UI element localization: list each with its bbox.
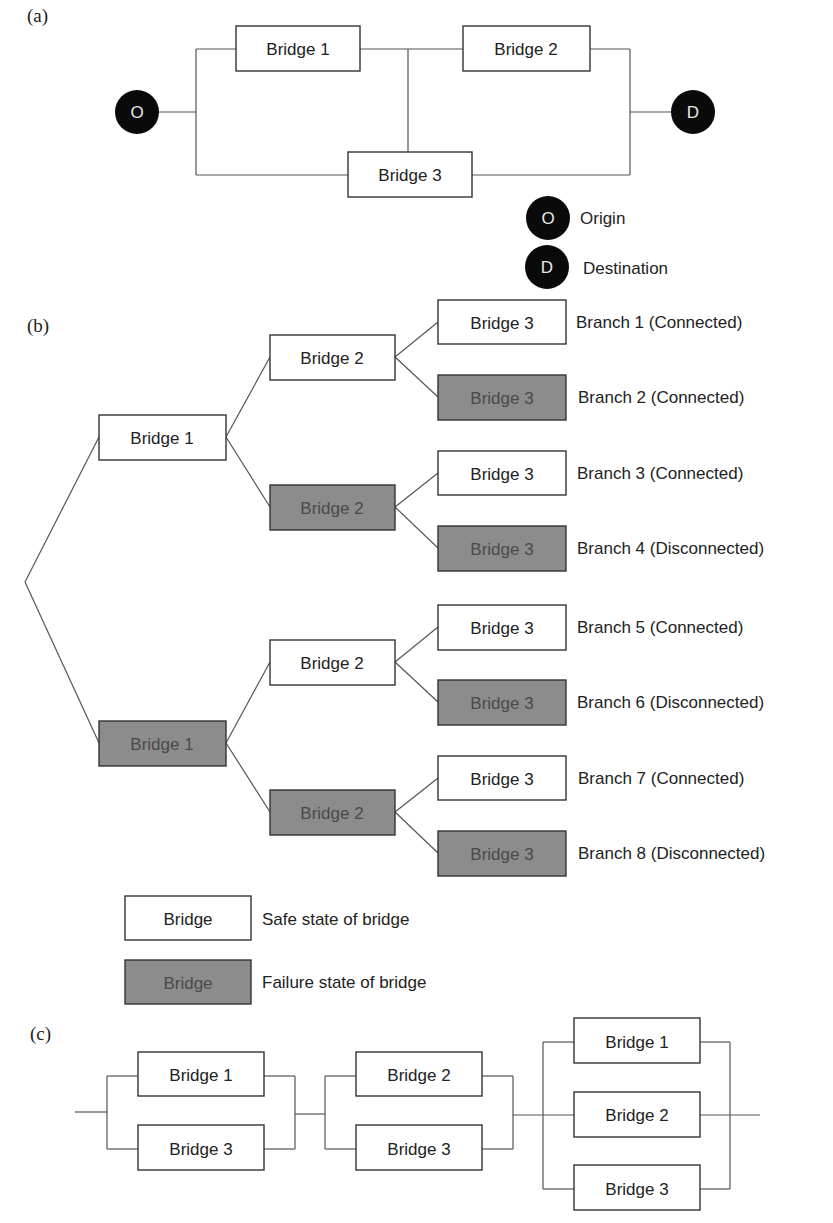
tree-node-label: Bridge 2	[300, 804, 363, 823]
bridge-network-reliability-diagram: (a) O D Bridge 1	[0, 0, 833, 1223]
panel-b: (b) Bridge 1 Bridg	[25, 300, 765, 1004]
legend-fail-state: Bridge Failure state of bridge	[125, 960, 426, 1004]
tree-node-label: Bridge 3	[470, 619, 533, 638]
panel-c-label: (c)	[30, 1023, 51, 1045]
panel-c-bridge-label: Bridge 2	[387, 1066, 450, 1085]
panel-a-bridge-2-label: Bridge 2	[494, 40, 557, 59]
branch-label: Branch 1 (Connected)	[576, 313, 742, 332]
cut-set-group-1: Bridge 1 Bridge 3	[138, 1052, 264, 1170]
legend-origin-letter: O	[541, 209, 554, 228]
tree-node-label: Bridge 1	[130, 735, 193, 754]
branch-label: Branch 6 (Disconnected)	[577, 693, 764, 712]
branch-label: Branch 3 (Connected)	[577, 464, 743, 483]
tree-node-label: Bridge 3	[470, 465, 533, 484]
legend-fail-box-label: Bridge	[163, 974, 212, 993]
tree-node-bridge-2-safe: Bridge 2	[270, 640, 395, 685]
cut-set-group-2: Bridge 2 Bridge 3	[356, 1052, 482, 1170]
legend-fail-text: Failure state of bridge	[262, 973, 426, 992]
branch-label: Branch 7 (Connected)	[578, 769, 744, 788]
tree-node-bridge-2-fail: Bridge 2	[270, 790, 395, 835]
tree-node-bridge-3-fail: Bridge 3	[438, 831, 566, 876]
panel-a-bridge-2: Bridge 2	[463, 26, 590, 71]
panel-c-bridge-label: Bridge 3	[169, 1140, 232, 1159]
panel-a-bridge-3: Bridge 3	[348, 152, 472, 197]
tree-node-bridge-3-safe: Bridge 3	[438, 605, 566, 650]
event-tree-edges	[25, 322, 438, 853]
branch-label: Branch 8 (Disconnected)	[578, 844, 765, 863]
tree-node-bridge-3-fail: Bridge 3	[438, 680, 566, 725]
origin-node: O	[115, 90, 159, 134]
tree-node-label: Bridge 3	[470, 845, 533, 864]
tree-node-bridge-3-safe: Bridge 3	[438, 300, 566, 344]
tree-node-bridge-3-safe: Bridge 3	[438, 451, 566, 495]
destination-node: D	[671, 90, 715, 134]
branch-label: Branch 2 (Connected)	[578, 388, 744, 407]
tree-node-label: Bridge 3	[470, 314, 533, 333]
panel-c-bridge-label: Bridge 1	[169, 1066, 232, 1085]
tree-node-bridge-3-fail: Bridge 3	[438, 375, 566, 420]
tree-node-label: Bridge 3	[470, 770, 533, 789]
tree-node-label: Bridge 3	[470, 389, 533, 408]
branch-label: Branch 5 (Connected)	[577, 618, 743, 637]
cut-set-group-3: Bridge 1 Bridge 2 Bridge 3	[574, 1018, 700, 1210]
tree-node-label: Bridge 3	[470, 540, 533, 559]
destination-node-letter: D	[687, 103, 699, 122]
state-legend: Bridge Safe state of bridge Bridge Failu…	[125, 896, 426, 1004]
tree-node-label: Bridge 2	[300, 349, 363, 368]
tree-node-label: Bridge 2	[300, 499, 363, 518]
panel-a-bridge-1: Bridge 1	[236, 26, 360, 71]
legend-safe-state: Bridge Safe state of bridge	[125, 896, 409, 940]
tree-node-label: Bridge 1	[130, 429, 193, 448]
tree-node-label: Bridge 2	[300, 654, 363, 673]
panel-a-label: (a)	[27, 5, 48, 27]
legend-safe-box-label: Bridge	[163, 910, 212, 929]
legend-origin-text: Origin	[580, 209, 625, 228]
panel-c-bridge-label: Bridge 1	[605, 1033, 668, 1052]
tree-node-bridge-1-fail: Bridge 1	[99, 721, 226, 766]
tree-node-bridge-2-safe: Bridge 2	[270, 335, 395, 380]
legend-destination-text: Destination	[583, 259, 668, 278]
panel-c-bridge-label: Bridge 3	[605, 1180, 668, 1199]
legend-origin: O Origin	[526, 196, 625, 240]
origin-node-letter: O	[130, 103, 143, 122]
tree-node-bridge-3-fail: Bridge 3	[438, 526, 566, 571]
panel-a-bridge-3-label: Bridge 3	[378, 166, 441, 185]
legend-destination: D Destination	[525, 245, 668, 289]
panel-c-bridge-label: Bridge 3	[387, 1140, 450, 1159]
tree-node-bridge-1-safe: Bridge 1	[99, 415, 226, 460]
legend-destination-letter: D	[541, 258, 553, 277]
panel-a: (a) O D Bridge 1	[27, 5, 715, 289]
branch-outcomes: Branch 1 (Connected) Branch 2 (Connected…	[576, 313, 765, 863]
tree-node-label: Bridge 3	[470, 694, 533, 713]
branch-label: Branch 4 (Disconnected)	[577, 539, 764, 558]
panel-a-bridge-1-label: Bridge 1	[266, 40, 329, 59]
panel-c-bridge-label: Bridge 2	[605, 1106, 668, 1125]
panel-c: (c)	[30, 1018, 760, 1210]
panel-b-label: (b)	[27, 315, 49, 337]
legend-safe-text: Safe state of bridge	[262, 910, 409, 929]
panel-a-legend: O Origin D Destination	[525, 196, 668, 289]
tree-node-bridge-3-safe: Bridge 3	[438, 756, 566, 800]
tree-node-bridge-2-fail: Bridge 2	[270, 485, 395, 530]
